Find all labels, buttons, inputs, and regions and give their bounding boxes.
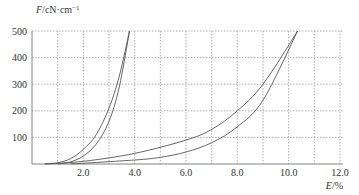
curve-loop-2-loading: [45, 31, 298, 164]
y-tick-labels: 100200300400500: [12, 26, 27, 143]
curve-loop-1-unloading: [58, 31, 130, 164]
x-tick-labels: 2.04.06.08.010.012.0: [77, 167, 349, 178]
y-tick-label: 200: [12, 105, 27, 116]
x-tick-label: 12.0: [331, 167, 349, 178]
y-tick-label: 300: [12, 79, 27, 90]
x-axis-title: E/%: [325, 180, 343, 191]
curve-loop-2-unloading: [71, 31, 298, 164]
grid-lines: [32, 31, 343, 164]
y-axis-title: F/cN·cm−1: [35, 4, 80, 15]
axes: [32, 31, 343, 164]
y-tick-label: 500: [12, 26, 27, 37]
x-tick-label: 4.0: [128, 167, 141, 178]
y-tick-label: 400: [12, 52, 27, 63]
x-tick-label: 10.0: [280, 167, 298, 178]
x-tick-label: 2.0: [77, 167, 90, 178]
y-tick-label: 100: [12, 132, 27, 143]
curves: [45, 31, 298, 164]
hysteresis-chart: 100200300400500 2.04.06.08.010.012.0 F/c…: [0, 0, 359, 195]
x-tick-label: 6.0: [180, 167, 193, 178]
x-tick-label: 8.0: [231, 167, 244, 178]
